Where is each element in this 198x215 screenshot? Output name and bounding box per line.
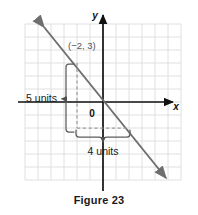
vertical-brace xyxy=(64,64,75,132)
y-axis-label: y xyxy=(91,10,98,21)
vertical-brace-label: 5 units xyxy=(26,92,57,104)
coordinate-graph: x y 0 5 units 4 units (−2, 3) xyxy=(0,0,198,215)
origin-label: 0 xyxy=(89,108,95,119)
x-axis-label: x xyxy=(172,101,179,112)
horizontal-brace-label: 4 units xyxy=(88,145,119,157)
figure-caption: Figure 23 xyxy=(0,194,198,206)
point-coordinate-label: (−2, 3) xyxy=(68,40,96,51)
figure-container: x y 0 5 units 4 units (−2, 3) Figure 23 xyxy=(0,0,198,215)
